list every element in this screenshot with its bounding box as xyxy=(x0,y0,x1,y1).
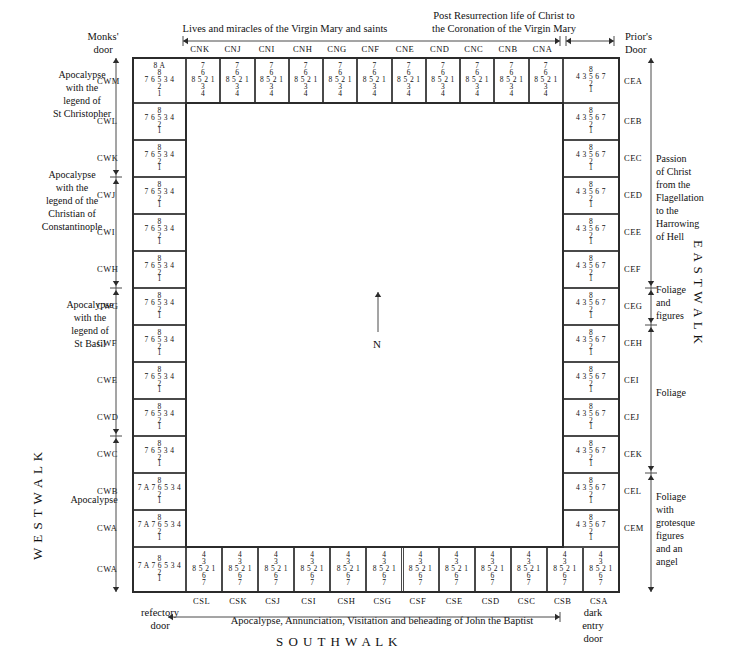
bay-cell-CWC[interactable]: 87 6 5 3 421 xyxy=(133,436,186,473)
bay-cell-CSL[interactable]: 438 5 2 167 xyxy=(186,547,222,592)
bay-cell-CSB[interactable]: 438 5 2 167 xyxy=(547,547,583,592)
bay-glazing-row: 4 xyxy=(338,91,342,98)
bay-glazing-row: 1 xyxy=(157,535,161,542)
bay-glazing-row: 7 xyxy=(527,580,531,587)
bay-glazing-row: 1 xyxy=(589,313,593,320)
bay-cell-CWL[interactable]: 87 6 5 3 421 xyxy=(133,103,186,140)
text-line: Apocalypse xyxy=(44,493,144,506)
east-span-arrowhead xyxy=(648,475,654,480)
text-line: figures xyxy=(656,529,728,542)
bay-cell-CEF[interactable]: 84 3 5 6 721 xyxy=(563,251,619,288)
bay-cell-CEJ[interactable]: 84 3 5 6 721 xyxy=(563,399,619,436)
bay-cell-CEA[interactable]: 84 3 5 6 721 xyxy=(563,58,619,103)
west-walk-title: W E S T W A L K xyxy=(30,451,46,560)
text-line: with xyxy=(656,503,728,516)
bay-cell-CEB[interactable]: 84 3 5 6 721 xyxy=(563,103,619,140)
bay-cell-CSG[interactable]: 438 5 2 167 xyxy=(366,547,402,592)
bay-cell-CWE[interactable]: 87 6 5 3 421 xyxy=(133,362,186,399)
bay-glazing-row: 4 xyxy=(475,91,479,98)
bay-glazing-row: 7 xyxy=(310,580,314,587)
bay-cell-CSE[interactable]: 438 5 2 167 xyxy=(439,547,475,592)
bay-code-CSG: CSG xyxy=(373,596,391,606)
bay-glazing-row: 4 xyxy=(372,91,376,98)
east-group-desc-1: Passionof Christfrom theFlagellationto t… xyxy=(656,152,728,243)
east-walk-title: E A S T W A L K xyxy=(690,240,706,345)
east-group-desc-4: Foliagewithgrotesquefiguresand anangel xyxy=(656,490,728,568)
bay-code-CSB: CSB xyxy=(554,596,572,606)
bay-cell-CEM[interactable]: 84 3 5 6 721 xyxy=(563,510,619,547)
bay-glazing-row: 1 xyxy=(589,461,593,468)
bay-cell-CWI[interactable]: 87 6 5 3 421 xyxy=(133,214,186,251)
courtyard-inner-frame xyxy=(186,102,563,104)
bay-cell-CNK[interactable]: 768 5 2 134 xyxy=(186,58,220,103)
bay-cell-CSK[interactable]: 438 5 2 167 xyxy=(222,547,258,592)
bay-code-CEM: CEM xyxy=(624,523,644,533)
bay-glazing-row: 4 xyxy=(304,91,308,98)
bay-cell-CNG[interactable]: 768 5 2 134 xyxy=(323,58,357,103)
bay-code-CWA: CWA xyxy=(97,523,117,533)
bay-glazing-row: 1 xyxy=(157,128,161,135)
bay-cell-CEG[interactable]: 84 3 5 6 721 xyxy=(563,288,619,325)
bay-cell-CWK[interactable]: 87 6 5 3 421 xyxy=(133,140,186,177)
bay-cell-CND[interactable]: 768 5 2 134 xyxy=(426,58,460,103)
text-line: Monks' xyxy=(74,30,132,43)
text-line: St Christopher xyxy=(32,107,132,120)
bay-cell-CNB[interactable]: 768 5 2 134 xyxy=(494,58,528,103)
bay-code-CSH: CSH xyxy=(337,596,355,606)
bay-cell-CWA[interactable]: 87 A 7 6 5 3 421 xyxy=(133,510,186,547)
bay-code-CEH: CEH xyxy=(624,338,643,348)
north-compass-label: N xyxy=(373,338,381,350)
bay-cell-CEK[interactable]: 84 3 5 6 721 xyxy=(563,436,619,473)
bay-cell-CNE[interactable]: 768 5 2 134 xyxy=(392,58,426,103)
text-line: door xyxy=(74,43,132,56)
bay-glazing-row: 7 xyxy=(274,580,278,587)
bay-cell-CWG[interactable]: 87 6 5 3 421 xyxy=(133,288,186,325)
bay-cell-CWJ[interactable]: 87 6 5 3 421 xyxy=(133,177,186,214)
bay-glazing-row: 1 xyxy=(157,576,161,583)
east-span-arrowhead xyxy=(648,318,654,323)
bay-cell-CNA[interactable]: 768 5 2 134 xyxy=(529,58,563,103)
bay-code-CEC: CEC xyxy=(624,153,642,163)
bay-cell-CNJ[interactable]: 768 5 2 134 xyxy=(220,58,254,103)
bay-cell-CWM[interactable]: 8 A87 6 5 3 421 xyxy=(133,58,186,103)
bay-cell-CWA-south[interactable]: 87 A 7 6 5 3 421 xyxy=(133,547,186,592)
bay-cell-CNF[interactable]: 768 5 2 134 xyxy=(357,58,391,103)
text-line: Constantinople xyxy=(22,220,122,233)
bay-cell-CNI[interactable]: 768 5 2 134 xyxy=(255,58,289,103)
text-line: door xyxy=(565,632,621,645)
bay-cell-CSD[interactable]: 438 5 2 167 xyxy=(475,547,511,592)
bay-code-CWD: CWD xyxy=(97,412,118,422)
bay-cell-CWF[interactable]: 87 6 5 3 421 xyxy=(133,325,186,362)
text-line: legend of xyxy=(32,94,132,107)
bay-cell-CWD[interactable]: 87 6 5 3 421 xyxy=(133,399,186,436)
bay-cell-CWH[interactable]: 87 6 5 3 421 xyxy=(133,251,186,288)
text-line: Prior's xyxy=(625,30,687,43)
arrowhead xyxy=(183,38,188,44)
bay-code-CNE: CNE xyxy=(396,44,415,54)
bay-cell-CNC[interactable]: 768 5 2 134 xyxy=(460,58,494,103)
bay-cell-CEL[interactable]: 84 3 5 6 721 xyxy=(563,473,619,510)
bay-cell-CSI[interactable]: 438 5 2 167 xyxy=(294,547,330,592)
bay-cell-CED[interactable]: 84 3 5 6 721 xyxy=(563,177,619,214)
bay-cell-CEI[interactable]: 84 3 5 6 721 xyxy=(563,362,619,399)
bay-glazing-row: 4 xyxy=(235,91,239,98)
bay-code-CEE: CEE xyxy=(624,227,642,237)
text-line: with the xyxy=(40,311,140,324)
bay-glazing-row: 1 xyxy=(589,202,593,209)
bay-glazing-row: 4 xyxy=(441,91,445,98)
bay-cell-CEH[interactable]: 84 3 5 6 721 xyxy=(563,325,619,362)
bay-cell-CSJ[interactable]: 438 5 2 167 xyxy=(258,547,294,592)
bay-cell-CSF[interactable]: 438 5 2 167 xyxy=(403,547,439,592)
bay-cell-CEC[interactable]: 84 3 5 6 721 xyxy=(563,140,619,177)
bay-cell-CSC[interactable]: 438 5 2 167 xyxy=(511,547,547,592)
text-line: Apocalypse xyxy=(22,168,122,181)
text-line: dark xyxy=(565,606,621,619)
refectory-door-label: refectorydoor xyxy=(125,606,195,632)
bay-cell-CNH[interactable]: 768 5 2 134 xyxy=(289,58,323,103)
text-line: Christian of xyxy=(22,207,122,220)
south-walk-title: S O U T H W A L K xyxy=(276,634,398,650)
bay-cell-CEE[interactable]: 84 3 5 6 721 xyxy=(563,214,619,251)
text-line: Apocalypse, Annunciation, Visitation and… xyxy=(222,614,542,627)
bay-cell-CSA[interactable]: 438 5 2 167 xyxy=(583,547,619,592)
bay-cell-CSH[interactable]: 438 5 2 167 xyxy=(330,547,366,592)
